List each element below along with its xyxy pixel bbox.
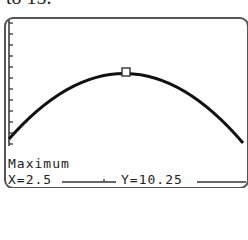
x-readout: X=2.5 [8,172,52,187]
y-readout: Y=10.25 [121,172,183,187]
maximum-marker-icon [122,68,130,76]
mode-label: Maximum [8,156,70,171]
parabola-curve [9,73,243,143]
